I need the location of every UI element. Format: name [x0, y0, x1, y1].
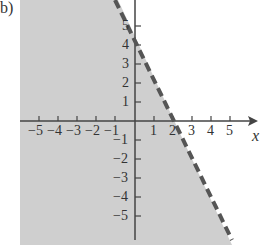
x-axis-label: x — [252, 128, 259, 144]
problem-label: b) — [0, 0, 13, 16]
y-tick-label: 2 — [122, 76, 129, 90]
x-tick-label: 5 — [226, 124, 233, 138]
y-tick-label: 3 — [122, 57, 129, 71]
y-tick-label: −1 — [113, 133, 128, 147]
y-tick-label: 5 — [122, 19, 129, 33]
y-tick-label: −5 — [113, 209, 128, 223]
y-tick-label: −4 — [113, 190, 128, 204]
x-tick-label: −5 — [28, 124, 43, 138]
y-tick-label: −2 — [113, 152, 128, 166]
x-tick-label: −4 — [47, 124, 62, 138]
y-tick-label: −3 — [113, 171, 128, 185]
y-tick-label: 1 — [122, 95, 129, 109]
x-tick-label: 2 — [169, 124, 176, 138]
y-tick-label: 4 — [122, 38, 129, 52]
x-tick-label: 1 — [150, 124, 157, 138]
x-tick-label: 3 — [188, 124, 195, 138]
x-tick-label: 4 — [207, 124, 214, 138]
x-tick-label: −2 — [85, 124, 100, 138]
x-tick-label: −3 — [66, 124, 81, 138]
